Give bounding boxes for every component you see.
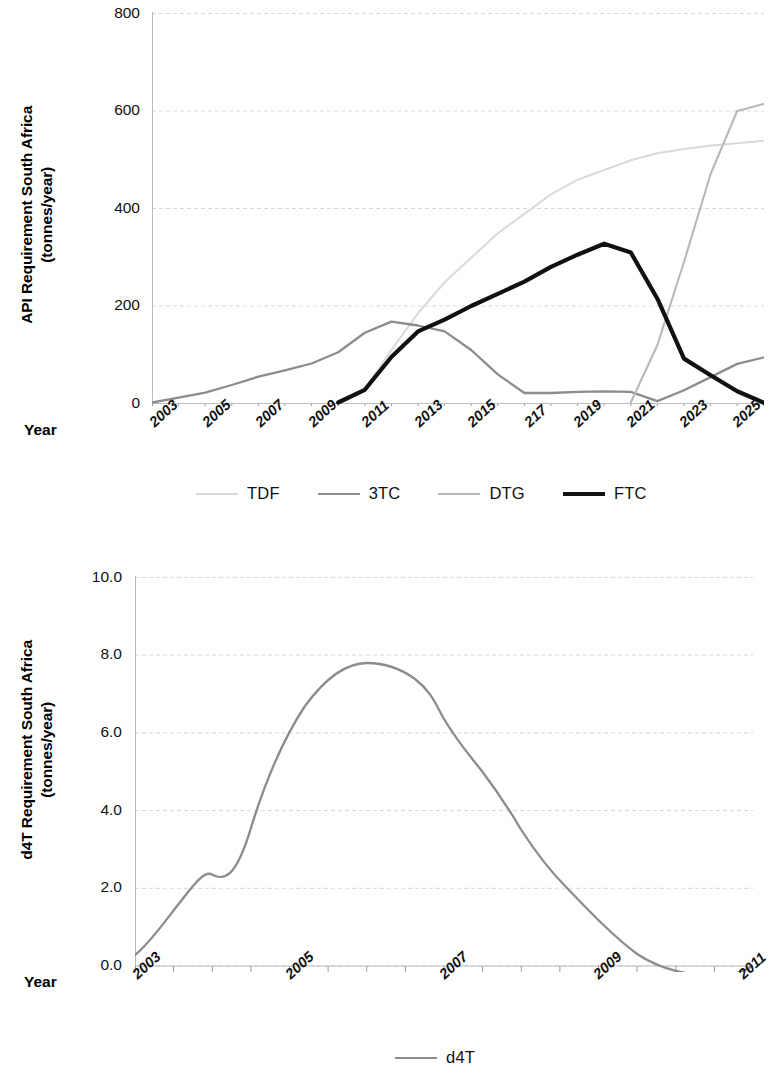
chart1-y-axis-label-line1: API Requirement South Africa: [18, 106, 35, 324]
chart1-legend-swatch-ftc: [563, 492, 605, 496]
chart2-ytick-4: 4.0: [62, 801, 122, 819]
chart2-x-axis-title: Year: [24, 973, 57, 991]
chart1-legend-swatch-dtg: [438, 493, 480, 495]
chart1-series-dtg: [631, 104, 764, 403]
chart2-svg: [135, 576, 753, 972]
chart2-ytick-10: 10.0: [62, 568, 122, 586]
chart1-y-axis-label: API Requirement South Africa (tonnes/yea…: [17, 90, 57, 340]
chart2-y-axis-label-line2: (tonnes/year): [37, 625, 57, 875]
chart1-series: [152, 104, 764, 403]
chart2-legend-swatch-d4t: [395, 1057, 437, 1059]
api-requirement-figure: API Requirement South Africa (tonnes/yea…: [0, 0, 764, 530]
chart1-xticks: [153, 404, 764, 406]
chart1-legend-item-dtg[interactable]: DTG: [438, 484, 524, 503]
chart2-plot-area: [135, 576, 753, 972]
chart1-xtick-217: 217: [521, 402, 550, 430]
d4t-requirement-figure: d4T Requirement South Africa (tonnes/yea…: [0, 530, 764, 1085]
chart1-plot-area: [152, 12, 764, 406]
chart2-y-axis-label: d4T Requirement South Africa (tonnes/yea…: [17, 625, 57, 875]
chart1-y-axis-label-line2: (tonnes/year): [37, 90, 57, 340]
chart1-gridlines: [152, 14, 764, 404]
chart1-legend-label-tdf: TDF: [247, 484, 280, 503]
chart2-y-axis-label-line1: d4T Requirement South Africa: [18, 640, 35, 860]
chart1-svg: [152, 12, 764, 406]
chart2-axes: [135, 576, 753, 967]
chart1-ytick-400: 400: [80, 199, 140, 217]
chart1-legend-label-3tc: 3TC: [369, 484, 401, 503]
chart2-gridlines: [135, 578, 753, 967]
chart2-legend: d4T: [395, 1048, 475, 1067]
chart1-ytick-600: 600: [80, 101, 140, 119]
chart2-ytick-0: 0.0: [62, 956, 122, 974]
chart2-series: [135, 663, 753, 972]
chart1-legend: TDF 3TC DTG FTC: [196, 484, 647, 503]
chart1-legend-label-ftc: FTC: [614, 484, 647, 503]
chart1-x-axis-title: Year: [24, 421, 57, 439]
chart1-series-tdf: [338, 141, 763, 403]
chart2-legend-item-d4t[interactable]: d4T: [395, 1048, 475, 1067]
chart2-ytick-2: 2.0: [62, 878, 122, 896]
chart1-legend-item-3tc[interactable]: 3TC: [318, 484, 401, 503]
chart1-ytick-200: 200: [80, 296, 140, 314]
chart1-legend-swatch-3tc: [318, 493, 360, 495]
chart2-ytick-8: 8.0: [62, 645, 122, 663]
chart1-legend-item-tdf[interactable]: TDF: [196, 484, 280, 503]
chart2-series-d4t: [135, 663, 753, 972]
chart1-legend-label-dtg: DTG: [489, 484, 524, 503]
chart1-legend-swatch-tdf: [196, 493, 238, 495]
chart1-ytick-0: 0: [80, 394, 140, 412]
chart1-ytick-800: 800: [80, 4, 140, 22]
chart2-legend-label-d4t: d4T: [446, 1048, 475, 1067]
chart1-legend-item-ftc[interactable]: FTC: [563, 484, 647, 503]
chart2-ytick-6: 6.0: [62, 723, 122, 741]
